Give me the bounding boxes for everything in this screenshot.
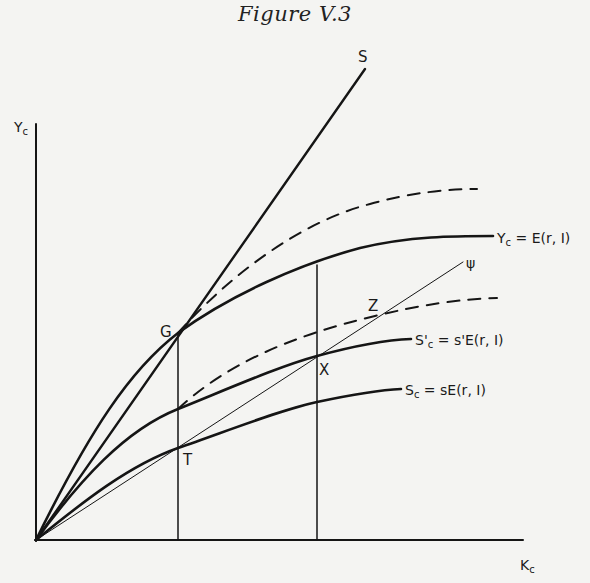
s-line	[36, 69, 365, 540]
x-axis-label: Kc	[520, 557, 535, 575]
point-x-label: X	[319, 361, 329, 379]
sc-prime-curve	[36, 339, 411, 540]
psi-line	[36, 262, 463, 540]
yc-curve-label: Yc = E(r, I)	[496, 230, 570, 248]
point-g-label: G	[160, 323, 172, 341]
sc-curve-label: Sc = sE(r, I)	[405, 382, 486, 400]
diagram-canvas: Yc Kc S ψ Yc = E(r, I) S'c = s'E(r, I) S…	[0, 0, 590, 583]
dashed-upper-curve	[178, 189, 477, 333]
point-t-label: T	[182, 451, 193, 469]
point-z-label: Z	[368, 297, 378, 315]
sc-prime-curve-label: S'c = s'E(r, I)	[415, 332, 504, 350]
sc-curve	[36, 389, 401, 540]
s-line-label: S	[358, 48, 368, 66]
y-axis-label: Yc	[13, 119, 28, 137]
psi-label: ψ	[466, 255, 475, 271]
